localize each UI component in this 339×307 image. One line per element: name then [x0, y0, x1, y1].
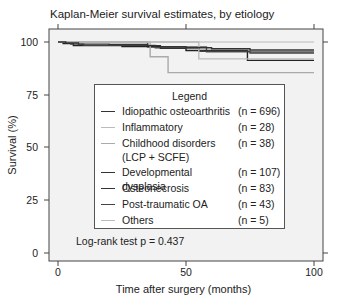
legend-count: (n = 38): [238, 136, 274, 150]
y-tick-75: 75: [8, 89, 38, 101]
legend-item: Osteonecrosis (n = 83): [95, 181, 284, 197]
x-tick-50: 50: [171, 266, 201, 278]
legend-title: Legend: [95, 90, 284, 102]
legend-count: (n = 696): [238, 104, 280, 118]
y-axis-label: Survival (%): [6, 115, 18, 174]
legend-count: (n = 28): [238, 120, 274, 134]
legend-count: (n = 5): [238, 213, 269, 227]
y-tick-0: 0: [8, 247, 38, 259]
logrank-annotation: Log-rank test p = 0.437: [76, 235, 184, 247]
x-axis-label: Time after surgery (months): [0, 283, 339, 295]
legend: Legend Idiopathic osteoarthritis (n = 69…: [94, 84, 285, 229]
legend-count: (n = 107): [238, 165, 280, 179]
legend-item: Idiopathic osteoarthritis (n = 696): [95, 104, 284, 120]
legend-swatch: [101, 188, 115, 189]
legend-swatch: [101, 127, 115, 128]
legend-label: Idiopathic osteoarthritis: [122, 104, 234, 118]
legend-label: Inflammatory: [122, 120, 234, 134]
legend-item: Post-traumatic OA (n = 43): [95, 197, 284, 213]
legend-item: Others (n = 5): [95, 213, 284, 229]
legend-swatch: [101, 220, 115, 221]
x-tick-100: 100: [299, 266, 329, 278]
y-tick-25: 25: [8, 194, 38, 206]
legend-label: Post-traumatic OA: [122, 197, 234, 211]
legend-count: (n = 43): [238, 197, 274, 211]
legend-label: Others: [122, 213, 234, 227]
legend-swatch: [101, 204, 115, 205]
legend-count: (n = 83): [238, 181, 274, 195]
x-tick-0: 0: [43, 266, 73, 278]
legend-item: Childhood disorders (LCP + SCFE) (n = 38…: [95, 136, 284, 165]
y-tick-100: 100: [8, 36, 38, 48]
legend-item: Developmental dysplasia (n = 107): [95, 165, 284, 181]
legend-item: Inflammatory (n = 28): [95, 120, 284, 136]
legend-label: Osteonecrosis: [122, 181, 234, 195]
legend-label: Childhood disorders (LCP + SCFE): [122, 136, 234, 164]
legend-swatch: [101, 143, 115, 144]
legend-swatch: [101, 172, 115, 173]
legend-swatch: [101, 111, 115, 112]
